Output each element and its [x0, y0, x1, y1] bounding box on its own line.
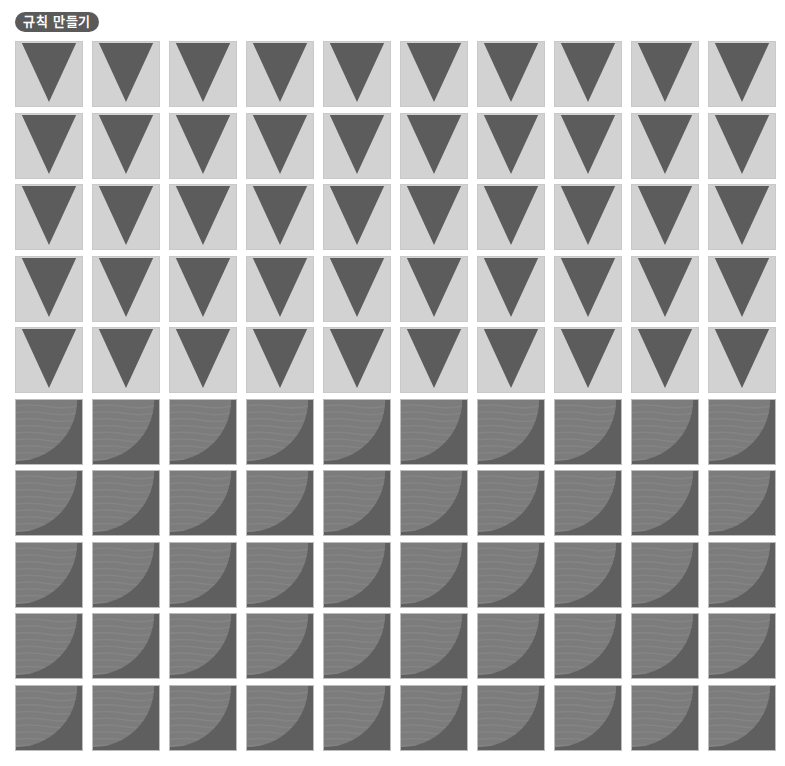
pattern-tile[interactable]	[15, 685, 83, 751]
pattern-tile[interactable]	[15, 184, 83, 250]
pattern-tile[interactable]	[477, 256, 545, 322]
pattern-tile[interactable]	[708, 470, 776, 536]
pattern-tile[interactable]	[246, 399, 314, 465]
pattern-tile[interactable]	[708, 184, 776, 250]
pattern-tile[interactable]	[323, 399, 391, 465]
pattern-tile[interactable]	[246, 256, 314, 322]
pattern-tile[interactable]	[15, 256, 83, 322]
pattern-tile[interactable]	[400, 470, 468, 536]
pattern-tile[interactable]	[554, 470, 622, 536]
pattern-tile[interactable]	[92, 542, 160, 608]
pattern-tile[interactable]	[554, 542, 622, 608]
pattern-tile[interactable]	[246, 184, 314, 250]
pattern-tile[interactable]	[708, 542, 776, 608]
pattern-tile[interactable]	[15, 41, 83, 107]
pattern-tile[interactable]	[400, 41, 468, 107]
pattern-tile[interactable]	[169, 184, 237, 250]
pattern-tile[interactable]	[400, 113, 468, 179]
pattern-tile[interactable]	[169, 399, 237, 465]
pattern-tile[interactable]	[400, 542, 468, 608]
pattern-tile[interactable]	[708, 613, 776, 679]
pattern-tile[interactable]	[631, 113, 699, 179]
pattern-tile[interactable]	[631, 470, 699, 536]
pattern-tile[interactable]	[15, 470, 83, 536]
pattern-tile[interactable]	[477, 327, 545, 393]
pattern-tile[interactable]	[169, 470, 237, 536]
pattern-tile[interactable]	[708, 327, 776, 393]
pattern-tile[interactable]	[246, 685, 314, 751]
pattern-tile[interactable]	[15, 399, 83, 465]
pattern-tile[interactable]	[631, 399, 699, 465]
pattern-tile[interactable]	[323, 41, 391, 107]
pattern-tile[interactable]	[169, 613, 237, 679]
pattern-tile[interactable]	[477, 542, 545, 608]
pattern-tile[interactable]	[169, 113, 237, 179]
pattern-tile[interactable]	[246, 542, 314, 608]
pattern-tile[interactable]	[554, 256, 622, 322]
pattern-tile[interactable]	[92, 470, 160, 536]
pattern-tile[interactable]	[631, 613, 699, 679]
pattern-tile[interactable]	[631, 542, 699, 608]
pattern-tile[interactable]	[92, 685, 160, 751]
pattern-tile[interactable]	[15, 542, 83, 608]
pattern-tile[interactable]	[631, 256, 699, 322]
pattern-tile[interactable]	[323, 613, 391, 679]
pattern-tile[interactable]	[400, 184, 468, 250]
pattern-tile[interactable]	[477, 41, 545, 107]
pattern-tile[interactable]	[708, 399, 776, 465]
pattern-tile[interactable]	[92, 113, 160, 179]
pattern-tile[interactable]	[246, 41, 314, 107]
pattern-tile[interactable]	[169, 41, 237, 107]
pattern-tile[interactable]	[708, 113, 776, 179]
pattern-tile[interactable]	[554, 113, 622, 179]
pattern-tile[interactable]	[400, 399, 468, 465]
pattern-tile[interactable]	[323, 542, 391, 608]
pattern-tile[interactable]	[169, 685, 237, 751]
pattern-tile[interactable]	[15, 327, 83, 393]
pattern-tile[interactable]	[631, 41, 699, 107]
pattern-tile[interactable]	[477, 470, 545, 536]
pattern-tile[interactable]	[554, 41, 622, 107]
pattern-tile[interactable]	[15, 113, 83, 179]
pattern-tile[interactable]	[631, 184, 699, 250]
pattern-tile[interactable]	[169, 327, 237, 393]
pattern-tile[interactable]	[400, 613, 468, 679]
pattern-tile[interactable]	[477, 613, 545, 679]
pattern-tile[interactable]	[708, 41, 776, 107]
pattern-tile[interactable]	[400, 256, 468, 322]
pattern-tile[interactable]	[92, 41, 160, 107]
pattern-tile[interactable]	[323, 327, 391, 393]
pattern-tile[interactable]	[554, 685, 622, 751]
pattern-tile[interactable]	[631, 327, 699, 393]
pattern-tile[interactable]	[477, 113, 545, 179]
pattern-tile[interactable]	[477, 685, 545, 751]
pattern-tile[interactable]	[92, 399, 160, 465]
pattern-tile[interactable]	[554, 613, 622, 679]
pattern-tile[interactable]	[708, 256, 776, 322]
pattern-tile[interactable]	[400, 327, 468, 393]
pattern-tile[interactable]	[554, 327, 622, 393]
pattern-tile[interactable]	[246, 327, 314, 393]
pattern-tile[interactable]	[323, 113, 391, 179]
pattern-tile[interactable]	[323, 470, 391, 536]
pattern-tile[interactable]	[92, 613, 160, 679]
pattern-tile[interactable]	[246, 613, 314, 679]
pattern-tile[interactable]	[323, 685, 391, 751]
pattern-tile[interactable]	[477, 184, 545, 250]
pattern-tile[interactable]	[246, 470, 314, 536]
pattern-tile[interactable]	[554, 399, 622, 465]
pattern-tile[interactable]	[554, 184, 622, 250]
pattern-tile[interactable]	[323, 256, 391, 322]
pattern-tile[interactable]	[92, 256, 160, 322]
pattern-tile[interactable]	[631, 685, 699, 751]
pattern-tile[interactable]	[477, 399, 545, 465]
pattern-tile[interactable]	[246, 113, 314, 179]
pattern-tile[interactable]	[400, 685, 468, 751]
pattern-tile[interactable]	[92, 184, 160, 250]
pattern-tile[interactable]	[92, 327, 160, 393]
pattern-tile[interactable]	[169, 542, 237, 608]
pattern-tile[interactable]	[169, 256, 237, 322]
pattern-tile[interactable]	[15, 613, 83, 679]
pattern-tile[interactable]	[708, 685, 776, 751]
pattern-tile[interactable]	[323, 184, 391, 250]
